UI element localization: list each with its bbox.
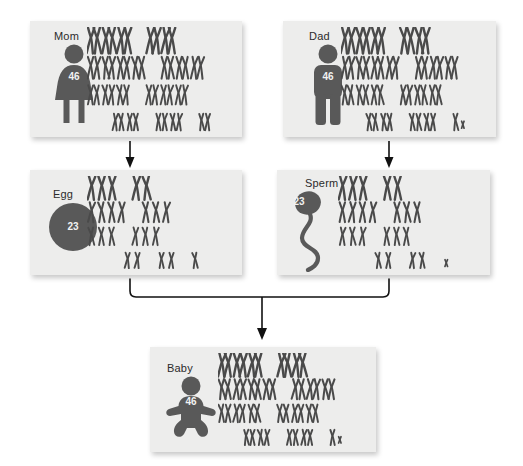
- card-dad: Dad 46: [283, 21, 496, 137]
- card-baby: Baby 46: [150, 347, 376, 452]
- karyotype-baby: [218, 353, 370, 449]
- card-label-egg: Egg: [53, 188, 73, 200]
- baby-figure-icon: [163, 375, 219, 441]
- karyotype-sperm: [338, 176, 490, 272]
- card-label-dad: Dad: [309, 30, 330, 42]
- diagram-canvas: Mom 46 Dad 46 Egg: [0, 0, 523, 466]
- karyotype-mom: [87, 27, 239, 135]
- arrow-dad-to-sperm: [385, 141, 394, 168]
- card-label-mom: Mom: [54, 30, 79, 42]
- card-sperm: Sperm 23: [277, 170, 490, 275]
- card-egg: Egg 23: [30, 170, 242, 275]
- bracket-parents-to-baby: [130, 279, 389, 340]
- card-label-sperm: Sperm: [305, 177, 338, 189]
- card-mom: Mom 46: [30, 21, 242, 137]
- karyotype-dad: [341, 27, 493, 135]
- card-label-baby: Baby: [167, 362, 193, 374]
- arrow-mom-to-egg: [126, 141, 135, 168]
- karyotype-egg: [87, 176, 239, 272]
